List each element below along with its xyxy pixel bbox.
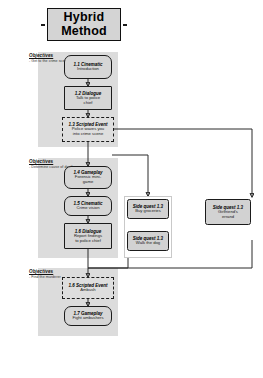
node-1-7-gameplay[interactable]: 1.7 Gameplay Fight ambushers bbox=[64, 306, 112, 326]
side-quest-walk-the-dog[interactable]: Side quest 1.3 Walk the dog bbox=[127, 231, 169, 251]
objective-block-3: Objectives - Find the murderer bbox=[29, 269, 61, 279]
diagram-title-line2: Method bbox=[61, 25, 107, 38]
diagram-title-banner: Hybrid Method bbox=[41, 8, 127, 41]
objective-heading: Objectives bbox=[29, 53, 69, 58]
banner-bar-right bbox=[123, 24, 127, 26]
side-quest-girlfriends-errand[interactable]: Side quest 1.3 Girlfriend'serrand bbox=[205, 199, 251, 225]
node-body: Introduction bbox=[77, 67, 99, 72]
node-body: Report findingsto police chief bbox=[74, 234, 102, 243]
node-body: Girlfriend'serrand bbox=[218, 210, 238, 219]
node-body: Fight ambushers bbox=[72, 316, 103, 321]
objective-heading: Objectives bbox=[29, 159, 74, 164]
node-1-2-dialogue[interactable]: 1.2 Dialogue Talk to policechief bbox=[64, 86, 112, 110]
side-quest-buy-groceries[interactable]: Side quest 1.3 Buy groceries bbox=[127, 199, 169, 219]
node-1-5-cinematic[interactable]: 1.5 Cinematic Crime vision bbox=[64, 196, 112, 216]
node-body: Ambush bbox=[80, 288, 95, 293]
node-body: Police waves youinto crime scene bbox=[72, 127, 104, 136]
flowchart-canvas: Hybrid Method Objectives - Get to the cr… bbox=[0, 0, 263, 378]
objective-heading: Objectives bbox=[29, 269, 61, 274]
node-1-4-gameplay[interactable]: 1.4 Gameplay Forensic mini-game bbox=[64, 166, 112, 189]
node-1-6-dialogue[interactable]: 1.6 Dialogue Report findingsto police ch… bbox=[64, 223, 112, 249]
banner-bar-left bbox=[41, 24, 45, 26]
node-body: Walk the dog bbox=[136, 241, 160, 246]
node-body: Crime vision bbox=[76, 206, 99, 211]
objective-subtext: - Get to the crime scene bbox=[29, 59, 69, 63]
diagram-title-line1: Hybrid bbox=[64, 11, 105, 24]
node-1-1-cinematic[interactable]: 1.1 Cinematic Introduction bbox=[64, 55, 112, 79]
node-body: Talk to policechief bbox=[76, 96, 100, 105]
node-body: Buy groceries bbox=[135, 209, 161, 214]
objective-block-1: Objectives - Get to the crime scene bbox=[29, 53, 69, 63]
node-body: Forensic mini-game bbox=[75, 175, 101, 184]
node-1-6-scripted-event[interactable]: 1.6 Scripted Event Ambush bbox=[62, 277, 114, 299]
node-1-3-scripted-event[interactable]: 1.3 Scripted Event Police waves youinto … bbox=[62, 117, 114, 142]
objective-subtext: - Find the murderer bbox=[29, 275, 61, 279]
diagram-title: Hybrid Method bbox=[47, 8, 121, 41]
